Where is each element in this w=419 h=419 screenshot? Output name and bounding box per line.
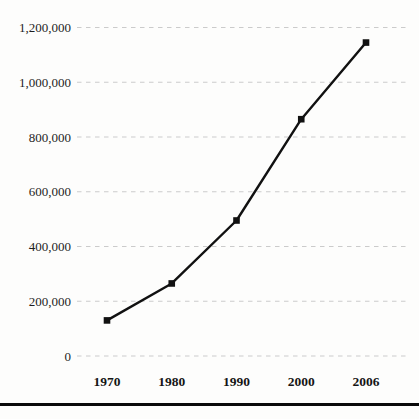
data-point-marker xyxy=(104,317,111,324)
y-tick-label: 1,200,000 xyxy=(19,20,71,35)
line-chart: 0200,000400,000600,000800,0001,000,0001,… xyxy=(0,0,419,419)
y-tick-label: 0 xyxy=(65,349,72,364)
bottom-rule-divider xyxy=(0,403,419,406)
y-tick-label: 200,000 xyxy=(29,294,71,309)
x-tick-label: 2000 xyxy=(288,374,315,389)
x-tick-label: 1990 xyxy=(223,374,250,389)
data-point-marker xyxy=(363,39,370,46)
x-tick-label: 2006 xyxy=(353,374,380,389)
y-tick-label: 400,000 xyxy=(29,239,71,254)
data-point-marker xyxy=(168,280,175,287)
x-tick-label: 1970 xyxy=(94,374,121,389)
data-point-marker xyxy=(298,116,305,123)
x-tick-label: 1980 xyxy=(158,374,185,389)
y-tick-label: 1,000,000 xyxy=(19,75,71,90)
series-line xyxy=(107,43,366,321)
y-tick-label: 800,000 xyxy=(29,130,71,145)
y-tick-label: 600,000 xyxy=(29,184,71,199)
data-point-marker xyxy=(233,217,240,224)
line-chart-figure: 0200,000400,000600,000800,0001,000,0001,… xyxy=(0,0,419,419)
